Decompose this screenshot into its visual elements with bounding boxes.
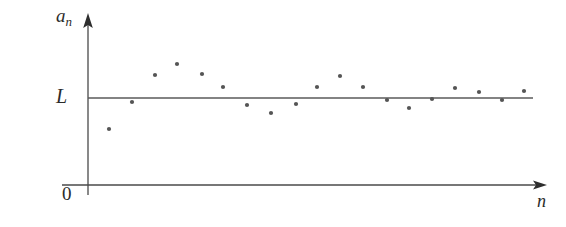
data-point <box>221 85 225 89</box>
y-axis-label-base: a <box>56 5 66 26</box>
data-point <box>245 103 249 107</box>
data-point <box>385 98 389 102</box>
data-point <box>175 62 179 66</box>
data-point <box>107 127 111 131</box>
y-axis-label-subscript: n <box>66 14 73 29</box>
data-point <box>361 85 365 89</box>
data-point <box>153 73 157 77</box>
data-points-group <box>107 62 526 131</box>
data-point <box>477 90 481 94</box>
limit-line-label: L <box>56 86 67 106</box>
data-point <box>338 74 342 78</box>
data-point <box>453 86 457 90</box>
data-point <box>294 102 298 106</box>
data-point <box>269 111 273 115</box>
data-point <box>407 106 411 110</box>
y-axis-label: an <box>56 6 72 28</box>
data-point <box>315 85 319 89</box>
data-point <box>522 89 526 93</box>
axes-group <box>62 13 547 195</box>
data-point <box>130 100 134 104</box>
data-point <box>200 72 204 76</box>
sequence-limit-figure: an L 0 n <box>0 0 566 227</box>
data-point <box>430 97 434 101</box>
x-axis-label: n <box>537 192 546 210</box>
origin-label: 0 <box>62 184 72 203</box>
plot-canvas <box>0 0 566 227</box>
data-point <box>500 98 504 102</box>
